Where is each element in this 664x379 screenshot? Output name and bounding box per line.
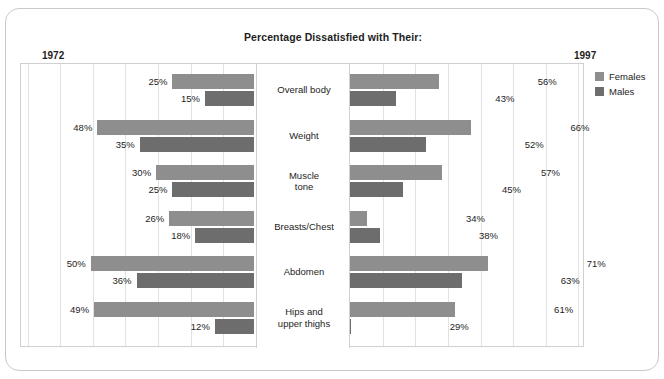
category-label: Abdomen [257, 266, 351, 278]
category-label-line: upper thighs [257, 318, 351, 330]
bar-value-label: 50% [67, 256, 86, 271]
axis-year-right: 1997 [574, 50, 596, 61]
bar-value-label: 34% [466, 211, 485, 226]
category-label-line: Hips and [257, 306, 351, 318]
category-label-line: tone [257, 181, 351, 193]
legend-item-males[interactable]: Males [595, 86, 664, 97]
bar-value-label: 48% [73, 120, 92, 135]
bar-value-label: 30% [132, 165, 151, 180]
bar [172, 74, 254, 89]
category-label-line: Muscle [257, 170, 351, 182]
plot-area: 25%15%56%43%48%35%66%52%30%25%57%45%26%1… [20, 63, 646, 347]
bar-value-label: 61% [554, 302, 573, 317]
category-label: Hips andupper thighs [257, 306, 351, 329]
gridline [28, 64, 29, 346]
bar [195, 228, 254, 243]
bar-value-label: 29% [450, 319, 469, 334]
gridline [546, 64, 547, 346]
category-label-line: Weight [257, 130, 351, 142]
bar-value-label: 56% [538, 74, 557, 89]
category-label: Weight [257, 130, 351, 142]
category-label-line: Breasts/Chest [257, 221, 351, 233]
axis-year-left: 1972 [42, 50, 64, 61]
gridline [60, 64, 61, 346]
bar-value-label: 25% [148, 74, 167, 89]
category-label-line: Abdomen [257, 266, 351, 278]
bar [97, 120, 254, 135]
bar [140, 137, 254, 152]
bar-value-label: 18% [171, 228, 190, 243]
bar [205, 91, 254, 106]
bar-value-label: 63% [561, 273, 580, 288]
bar [91, 256, 254, 271]
bar [156, 165, 254, 180]
bar [137, 273, 255, 288]
legend-label-males: Males [609, 86, 634, 97]
bar-value-label: 43% [495, 91, 514, 106]
gridline [578, 64, 579, 346]
gridline [513, 64, 514, 346]
legend-item-females[interactable]: Females [595, 71, 664, 82]
bar [172, 182, 254, 197]
bar-value-label: 52% [525, 137, 544, 152]
legend-label-females: Females [609, 71, 645, 82]
bar-value-label: 12% [191, 319, 210, 334]
bar [169, 211, 254, 226]
bar [94, 302, 254, 317]
legend-swatch-icon-males [595, 87, 604, 96]
legend: Females Males [595, 71, 664, 101]
bar-value-label: 38% [479, 228, 498, 243]
category-label: Overall body [257, 84, 351, 96]
bar-value-label: 45% [502, 182, 521, 197]
category-label: Breasts/Chest [257, 221, 351, 233]
category-label-panel: Overall bodyWeightMuscletoneBreasts/Ches… [256, 64, 350, 348]
bar-value-label: 26% [145, 211, 164, 226]
bar-value-label: 66% [570, 120, 589, 135]
gridline [481, 64, 482, 346]
plot-frame: 25%15%56%43%48%35%66%52%30%25%57%45%26%1… [20, 63, 584, 347]
page-title: Percentage Dissatisfied with Their: [6, 31, 660, 43]
bar [215, 319, 254, 334]
bar-value-label: 15% [181, 91, 200, 106]
bar-value-label: 57% [541, 165, 560, 180]
bar-value-label: 49% [70, 302, 89, 317]
legend-swatch-icon-females [595, 72, 604, 81]
bar-value-label: 35% [116, 137, 135, 152]
bar-value-label: 25% [148, 182, 167, 197]
bar-value-label: 71% [587, 256, 606, 271]
category-label: Muscletone [257, 170, 351, 193]
chart-card: Percentage Dissatisfied with Their: 1972… [5, 8, 659, 371]
category-label-line: Overall body [257, 84, 351, 96]
bar-value-label: 36% [112, 273, 131, 288]
